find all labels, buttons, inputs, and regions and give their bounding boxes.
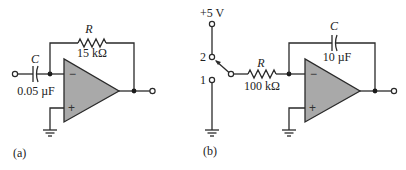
output-terminal-a [150,88,155,93]
input-terminal-a [12,71,17,76]
panel-b-caption: (b) [203,144,217,158]
resistor-a-symbol: R [84,22,93,36]
switch-common-terminal [228,71,233,76]
circuit-figure: − + R 15 kΩ C 0.05 µF (a) +5 V 2 1 [0,0,406,170]
resistor-b [248,70,276,78]
noninverting-input-sign: + [68,101,75,115]
resistor-a-value: 15 kΩ [77,46,107,60]
panel-a-differentiator: − + R 15 kΩ C 0.05 µF (a) [12,22,155,160]
switch-position-1 [209,77,214,82]
noninverting-input-sign: + [309,101,316,115]
supply-terminal [209,21,214,26]
supply-label: +5 V [200,6,225,20]
resistor-b-value: 100 kΩ [244,79,280,93]
panel-a-caption: (a) [13,146,26,160]
capacitor-b-symbol: C [330,19,339,33]
capacitor-a-value: 0.05 µF [17,84,55,98]
output-terminal-b [391,88,396,93]
resistor-b-symbol: R [256,56,265,70]
switch-position-2 [209,54,214,59]
ground-icon [43,130,57,136]
inverting-input-sign: − [310,67,317,81]
capacitor-b-value: 10 µF [323,50,352,64]
inverting-input-sign: − [69,67,76,81]
ground-icon [205,130,219,136]
ground-icon [282,130,296,136]
switch-arm [215,60,229,73]
panel-b-integrator: +5 V 2 1 − + [200,6,397,158]
capacitor-a-symbol: C [31,52,40,66]
switch-pos2-label: 2 [200,50,206,64]
switch-pos1-label: 1 [200,73,206,87]
